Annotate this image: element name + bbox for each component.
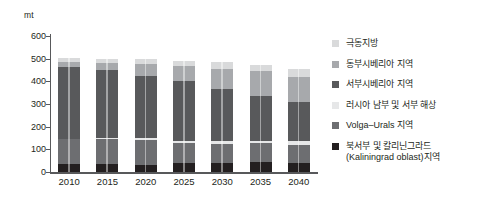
bar-segment — [288, 77, 310, 102]
chart-legend: 극동지방동부시베리아 지역서부시베리아 지역러시아 남부 및 서부 해상Volg… — [332, 38, 482, 172]
bar-segment — [135, 165, 157, 172]
x-axis-line — [50, 172, 318, 174]
y-axis-tick-label: 100 — [31, 144, 46, 154]
bar-2040[interactable] — [288, 69, 310, 172]
legend-swatch-icon — [332, 102, 339, 109]
bar-segment — [96, 139, 118, 164]
bar-segment — [135, 76, 157, 138]
bar-segment — [211, 89, 233, 141]
bar-segment — [250, 96, 272, 140]
chart-container: mt 6005004003002001000 극동지방동부시베리아 지역서부시베… — [0, 0, 484, 214]
x-axis-tick-label: 2040 — [288, 176, 309, 187]
bar-segment — [173, 66, 195, 81]
bar-segment — [250, 143, 272, 162]
bar-2025[interactable] — [173, 61, 195, 172]
legend-swatch-icon — [332, 143, 339, 150]
legend-item-label: 동부시베리아 지역 — [346, 59, 413, 70]
legend-item[interactable]: 서부시베리아 지역 — [332, 79, 482, 90]
bar-2030[interactable] — [211, 62, 233, 172]
y-axis-unit-label: mt — [24, 10, 34, 20]
legend-item[interactable]: 북서부 및 칼리닌그라드 (Kaliningrad oblast)지역 — [332, 141, 482, 163]
legend-item[interactable]: 러시아 남부 및 서부 해상 — [332, 100, 482, 111]
bar-segment — [288, 145, 310, 163]
legend-item-label: 극동지방 — [346, 38, 378, 49]
bar-segment — [96, 164, 118, 172]
legend-swatch-icon — [332, 40, 339, 47]
y-axis-tick-label: 500 — [31, 54, 46, 64]
plot-area — [50, 36, 318, 172]
bar-segment — [250, 71, 272, 96]
bar-segment — [173, 143, 195, 163]
legend-item[interactable]: 동부시베리아 지역 — [332, 59, 482, 70]
bar-segment — [211, 163, 233, 172]
legend-swatch-icon — [332, 122, 339, 129]
legend-item-label: Volga–Urals 지역 — [346, 120, 413, 131]
bar-2015[interactable] — [96, 59, 118, 172]
x-axis-tick-label: 2025 — [173, 176, 194, 187]
bar-segment — [58, 164, 80, 172]
bar-2035[interactable] — [250, 65, 272, 172]
legend-swatch-icon — [332, 61, 339, 68]
x-axis-tick-label: 2010 — [59, 176, 80, 187]
legend-item[interactable]: 극동지방 — [332, 38, 482, 49]
legend-swatch-icon — [332, 81, 339, 88]
bar-segment — [250, 162, 272, 172]
bar-segment — [288, 102, 310, 142]
bar-segment — [211, 62, 233, 69]
legend-item[interactable]: Volga–Urals 지역 — [332, 120, 482, 131]
bar-segment — [58, 67, 80, 139]
y-axis-tick-label: 600 — [31, 31, 46, 41]
y-axis-tick-label: 300 — [31, 99, 46, 109]
legend-item-label: 러시아 남부 및 서부 해상 — [346, 100, 436, 111]
bar-segment — [135, 64, 157, 76]
bar-segment — [135, 140, 157, 165]
bar-segment — [288, 69, 310, 77]
bar-2020[interactable] — [135, 59, 157, 172]
bar-segment — [173, 163, 195, 172]
y-axis-tick-label: 200 — [31, 122, 46, 132]
y-axis-tick-labels: 6005004003002001000 — [0, 36, 46, 172]
bar-segment — [211, 144, 233, 163]
legend-item-label: 북서부 및 칼리닌그라드 (Kaliningrad oblast)지역 — [346, 141, 440, 163]
legend-item-label: 서부시베리아 지역 — [346, 79, 413, 90]
bar-segment — [211, 69, 233, 89]
bar-segment — [288, 163, 310, 172]
bar-segment — [173, 81, 195, 141]
y-axis-tick-label: 400 — [31, 76, 46, 86]
bar-segment — [96, 63, 118, 70]
x-axis-tick-label: 2020 — [135, 176, 156, 187]
x-axis-tick-label: 2030 — [212, 176, 233, 187]
bar-segment — [58, 139, 80, 164]
x-axis-tick-label: 2015 — [97, 176, 118, 187]
x-axis-tick-label: 2035 — [250, 176, 271, 187]
bar-segment — [96, 70, 118, 138]
bar-2010[interactable] — [58, 58, 80, 172]
